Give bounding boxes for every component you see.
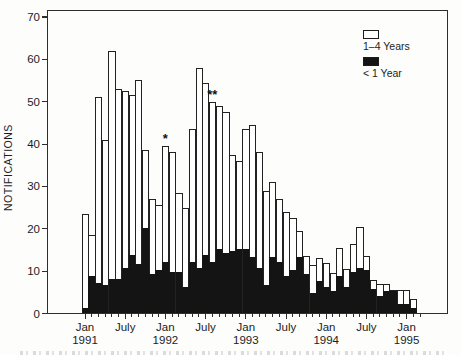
x-axis-tick	[386, 314, 387, 317]
x-axis-month-label: Jan	[147, 321, 183, 333]
legend-label: < 1 Year	[363, 67, 402, 79]
x-axis-year-label: 1995	[389, 334, 425, 346]
y-axis-tick-label: 50	[12, 96, 40, 108]
x-axis-tick	[165, 314, 166, 319]
x-axis-tick	[319, 314, 320, 317]
x-axis-tick	[91, 314, 92, 317]
x-axis-tick	[198, 314, 199, 317]
y-axis-tick-label: 30	[12, 180, 40, 192]
x-axis-tick	[272, 314, 273, 317]
x-axis-tick	[245, 314, 246, 319]
x-axis-tick	[178, 314, 179, 317]
y-axis-tick-label: 0	[12, 308, 40, 320]
x-axis-month-label: Jan	[67, 321, 103, 333]
x-axis-tick	[366, 314, 367, 319]
x-axis-year-label: 1992	[147, 334, 183, 346]
y-axis-tick-label: 40	[12, 138, 40, 150]
x-axis-month-label: Jan	[228, 321, 264, 333]
x-axis-tick	[118, 314, 119, 317]
y-axis-tick-label: 60	[12, 53, 40, 65]
y-axis-tick	[42, 144, 48, 145]
y-axis-tick	[42, 228, 48, 229]
x-axis-tick	[339, 314, 340, 317]
x-axis-tick	[420, 314, 421, 317]
x-axis-tick	[359, 314, 360, 317]
bar-segment-under-1-year	[410, 308, 417, 313]
x-axis-year-label: 1994	[308, 334, 344, 346]
x-axis-tick	[279, 314, 280, 317]
x-axis-tick	[138, 314, 139, 317]
y-axis-tick	[42, 16, 48, 17]
y-axis-tick	[42, 59, 48, 60]
x-axis-tick	[105, 314, 106, 317]
x-axis-tick	[185, 314, 186, 317]
x-axis-tick	[252, 314, 253, 317]
x-axis-tick	[212, 314, 213, 317]
x-axis-tick	[265, 314, 266, 317]
x-axis-tick	[393, 314, 394, 317]
x-axis-tick	[85, 314, 86, 319]
x-axis-month-label: July	[188, 321, 224, 333]
y-axis-tick	[42, 101, 48, 102]
y-axis-tick-label: 20	[12, 223, 40, 235]
x-axis-tick	[406, 314, 407, 319]
notifications-chart-figure: NOTIFICATIONS 010203040506070Jan1991July…	[0, 0, 461, 355]
y-axis-tick-label: 70	[12, 11, 40, 23]
x-axis-month-label: July	[107, 321, 143, 333]
x-axis-tick	[172, 314, 173, 317]
x-axis-month-label: July	[348, 321, 384, 333]
x-axis-tick	[286, 314, 287, 319]
x-axis-tick	[232, 314, 233, 317]
x-axis-tick	[192, 314, 193, 317]
x-axis-tick	[399, 314, 400, 317]
x-axis-month-label: July	[268, 321, 304, 333]
x-axis-tick	[299, 314, 300, 317]
x-axis-tick	[259, 314, 260, 317]
x-axis-tick	[239, 314, 240, 317]
x-axis-year-label: 1993	[228, 334, 264, 346]
x-axis-year-label: 1991	[67, 334, 103, 346]
x-axis-tick	[292, 314, 293, 317]
x-axis-tick	[326, 314, 327, 319]
x-axis-tick	[125, 314, 126, 319]
y-axis-tick	[42, 271, 48, 272]
significance-marker: **	[200, 87, 224, 102]
x-axis-tick	[312, 314, 313, 317]
x-axis-tick	[145, 314, 146, 317]
x-axis-tick	[131, 314, 132, 317]
x-axis-tick	[111, 314, 112, 317]
x-axis-tick	[413, 314, 414, 317]
bar-stack	[410, 299, 417, 314]
y-axis-tick-label: 10	[12, 265, 40, 277]
x-axis-tick	[219, 314, 220, 317]
x-axis-tick	[346, 314, 347, 317]
legend-label: 1–4 Years	[363, 40, 410, 52]
x-axis-tick	[373, 314, 374, 317]
x-axis-tick	[332, 314, 333, 317]
x-axis-tick	[379, 314, 380, 317]
x-axis-tick	[306, 314, 307, 317]
y-axis-tick	[42, 313, 48, 314]
x-axis-month-label: Jan	[308, 321, 344, 333]
x-axis-tick	[225, 314, 226, 317]
x-axis-month-label: Jan	[389, 321, 425, 333]
legend-swatch-under-1-year	[363, 57, 379, 66]
x-axis-tick	[353, 314, 354, 317]
y-axis-tick	[42, 186, 48, 187]
significance-marker: *	[153, 131, 177, 146]
x-axis-tick	[158, 314, 159, 317]
cutoff-caption-remnant	[20, 351, 444, 355]
legend-swatch-1-4-years	[363, 30, 379, 39]
x-axis-tick	[205, 314, 206, 319]
x-axis-tick	[98, 314, 99, 317]
y-axis-title: NOTIFICATIONS	[2, 118, 16, 218]
x-axis-tick	[152, 314, 153, 317]
